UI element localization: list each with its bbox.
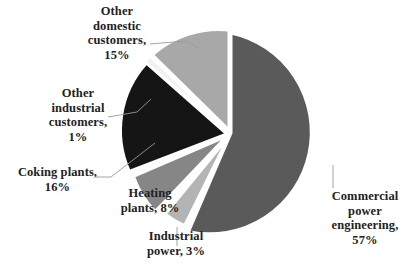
pie-label-other-industrial-customers: Other industrial customers, 1%	[22, 86, 134, 144]
pie-label-industrial-power: Industrial power, 3%	[120, 229, 232, 258]
pie-label-coking-plants: Coking plants, 16%	[0, 165, 115, 194]
pie-label-heating-plants: Heating plants, 8%	[104, 186, 196, 215]
pie-label-other-domestic-customers: Other domestic customers, 15%	[61, 4, 173, 62]
pie-chart: Other domestic customers, 15% Other indu…	[0, 0, 410, 279]
pie-label-commercial-power-engineering: Commercial power engineering, 57%	[322, 189, 408, 247]
